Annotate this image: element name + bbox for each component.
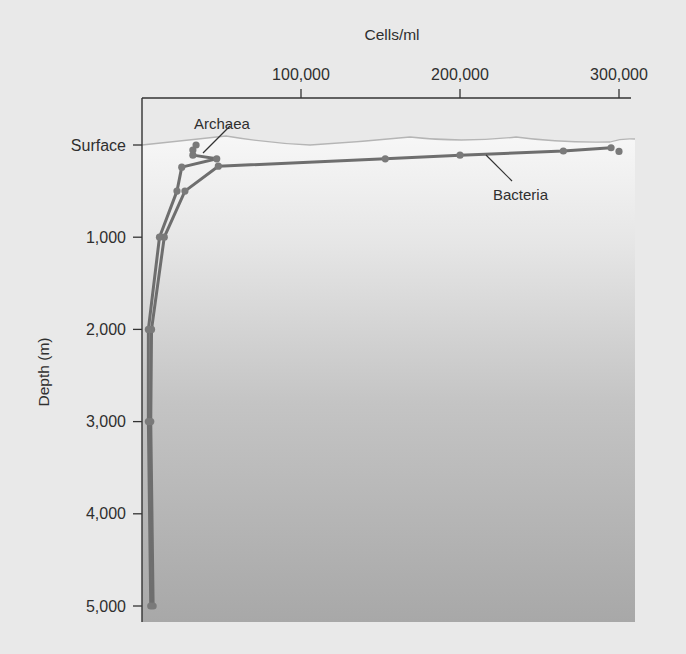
archaea-data-point: [178, 164, 185, 171]
archaea-data-point: [147, 602, 154, 609]
bacteria-data-point: [215, 163, 222, 170]
y-tick-label: 2,000: [86, 321, 126, 338]
x-axis-title: Cells/ml: [364, 26, 419, 43]
bacteria-data-point: [615, 148, 622, 155]
depth-profile-chart: 100,000200,000300,000 Surface1,0002,0003…: [0, 0, 686, 654]
archaea-data-point: [213, 155, 220, 162]
archaea-data-point: [145, 326, 152, 333]
archaea-data-point: [145, 418, 152, 425]
bacteria-label: Bacteria: [493, 186, 549, 203]
archaea-data-point: [156, 234, 163, 241]
y-tick-label: 5,000: [86, 598, 126, 615]
archaea-data-point: [189, 152, 196, 159]
y-tick-label: 3,000: [86, 413, 126, 430]
bacteria-data-point: [382, 155, 389, 162]
water-column: [142, 136, 635, 622]
x-tick-label: 200,000: [431, 66, 489, 83]
bacteria-data-point: [607, 144, 614, 151]
archaea-label: Archaea: [194, 115, 251, 132]
bacteria-data-point: [456, 152, 463, 159]
x-tick-label: 300,000: [590, 66, 648, 83]
y-axis-ticks: Surface1,0002,0003,0004,0005,000: [71, 137, 142, 615]
x-tick-label: 100,000: [272, 66, 330, 83]
y-tick-label: 1,000: [86, 229, 126, 246]
y-tick-label: 4,000: [86, 505, 126, 522]
archaea-data-point: [173, 188, 180, 195]
bacteria-data-point: [560, 147, 567, 154]
y-tick-label: Surface: [71, 137, 126, 154]
x-axis-ticks: 100,000200,000300,000: [272, 66, 648, 98]
y-axis-title: Depth (m): [35, 338, 52, 407]
bacteria-data-point: [181, 188, 188, 195]
